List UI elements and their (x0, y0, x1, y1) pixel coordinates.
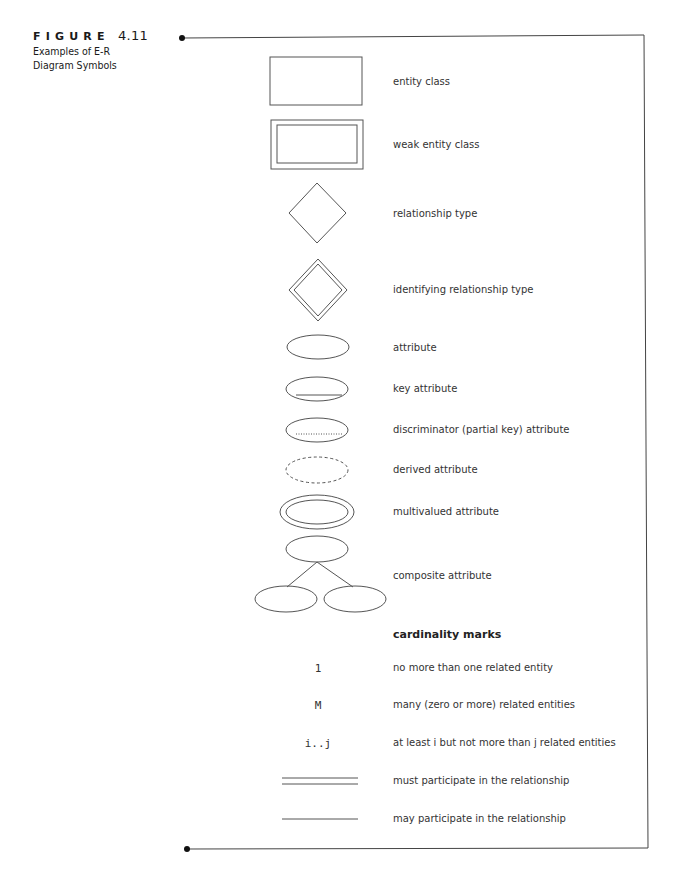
derived-attribute-symbol (286, 457, 348, 483)
multivalued-attribute-symbol (280, 495, 354, 529)
weak-entity-class-symbol (271, 120, 363, 169)
label-discriminator-attribute: discriminator (partial key) attribute (393, 424, 570, 436)
label-cardinality-range: at least i but not more than j related e… (393, 737, 616, 749)
cardinality-mark-many: M (278, 699, 358, 712)
label-key-attribute: key attribute (393, 383, 457, 395)
composite-attribute-symbol (255, 536, 386, 612)
label-must-participate: must participate in the relationship (393, 775, 569, 787)
label-composite-attribute: composite attribute (393, 570, 492, 582)
label-relationship-type: relationship type (393, 208, 477, 220)
label-derived-attribute: derived attribute (393, 464, 478, 476)
key-attribute-symbol (286, 377, 348, 401)
cardinality-heading: cardinality marks (393, 628, 501, 641)
cardinality-mark-one: 1 (278, 662, 358, 675)
relationship-type-symbol (289, 183, 346, 243)
er-symbols-diagram (0, 0, 676, 888)
frame-bottom-dot (184, 846, 190, 852)
label-weak-entity-class: weak entity class (393, 139, 479, 151)
label-cardinality-many: many (zero or more) related entities (393, 699, 575, 711)
cardinality-mark-range: i..j (278, 737, 358, 750)
label-multivalued-attribute: multivalued attribute (393, 506, 499, 518)
label-cardinality-one: no more than one related entity (393, 662, 553, 674)
label-entity-class: entity class (393, 76, 450, 88)
label-attribute: attribute (393, 342, 437, 354)
label-may-participate: may participate in the relationship (393, 813, 566, 825)
identifying-relationship-type-symbol (289, 259, 347, 321)
must-participate-line (282, 778, 358, 784)
discriminator-attribute-symbol (286, 418, 348, 442)
entity-class-symbol (270, 57, 362, 105)
attribute-symbol (287, 335, 349, 359)
frame-top-dot (179, 35, 185, 41)
figure-frame (182, 35, 648, 849)
label-identifying-relationship-type: identifying relationship type (393, 284, 534, 296)
